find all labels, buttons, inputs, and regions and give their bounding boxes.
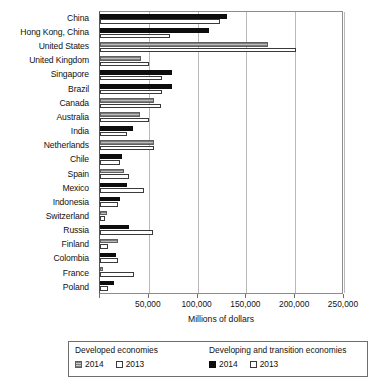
x-tick-label: 150,000 bbox=[230, 299, 260, 309]
bar-row bbox=[100, 12, 342, 26]
legend-item-developing-2013: 2013 bbox=[250, 359, 279, 369]
legend-item-developing-2014: 2014 bbox=[209, 359, 238, 369]
bar-2013 bbox=[100, 258, 118, 263]
plot-wrapper: ChinaHong Kong, ChinaUnited StatesUnited… bbox=[0, 0, 384, 300]
category-label: United States bbox=[0, 39, 93, 53]
bar-2014 bbox=[100, 183, 127, 188]
bar-2013 bbox=[100, 76, 162, 81]
category-label: Finland bbox=[0, 238, 93, 252]
bar-2013 bbox=[100, 216, 105, 221]
bar-row bbox=[100, 96, 342, 110]
swatch-developed-2014-icon bbox=[75, 361, 82, 368]
bar-row bbox=[100, 195, 342, 209]
category-label: Singapore bbox=[0, 68, 93, 82]
bar-row bbox=[100, 110, 342, 124]
gridline bbox=[344, 12, 345, 293]
category-label: Brazil bbox=[0, 82, 93, 96]
bar-2014 bbox=[100, 140, 154, 145]
category-label: Netherlands bbox=[0, 138, 93, 152]
bar-2013 bbox=[100, 62, 149, 67]
bar-2014 bbox=[100, 253, 116, 258]
legend-label-developed-2014: 2014 bbox=[85, 359, 104, 369]
bar-row bbox=[100, 152, 342, 166]
bar-row bbox=[100, 68, 342, 82]
bar-row bbox=[100, 181, 342, 195]
bar-row bbox=[100, 251, 342, 265]
bar-2013 bbox=[100, 188, 144, 193]
bar-2013 bbox=[100, 34, 170, 39]
category-label: China bbox=[0, 11, 93, 25]
category-label: India bbox=[0, 124, 93, 138]
bar-2014 bbox=[100, 267, 103, 272]
bar-row bbox=[100, 26, 342, 40]
x-tick bbox=[197, 294, 198, 298]
bar-2014 bbox=[100, 70, 172, 75]
bar-2013 bbox=[100, 230, 153, 235]
x-tick bbox=[245, 294, 246, 298]
bar-2014 bbox=[100, 14, 227, 19]
bar-row bbox=[100, 265, 342, 279]
legend-label-developing-2013: 2013 bbox=[260, 359, 279, 369]
bar-row bbox=[100, 54, 342, 68]
category-label: Poland bbox=[0, 280, 93, 294]
bar-2014 bbox=[100, 28, 209, 33]
legend-group-developing: Developing and transition economies 2014… bbox=[209, 345, 346, 369]
bar-row bbox=[100, 138, 342, 152]
bar-chart: ChinaHong Kong, ChinaUnited StatesUnited… bbox=[0, 0, 384, 391]
bar-row bbox=[100, 209, 342, 223]
bar-2013 bbox=[100, 272, 134, 277]
swatch-developed-2013-icon bbox=[116, 361, 123, 368]
bar-2014 bbox=[100, 98, 154, 103]
category-label: Switzerland bbox=[0, 209, 93, 223]
bar-2014 bbox=[100, 126, 133, 131]
bar-2014 bbox=[100, 112, 140, 117]
category-label: Indonesia bbox=[0, 195, 93, 209]
bar-2014 bbox=[100, 239, 118, 244]
bar-2014 bbox=[100, 197, 120, 202]
category-label: Colombia bbox=[0, 252, 93, 266]
bar-2014 bbox=[100, 154, 122, 159]
swatch-developing-2014-icon bbox=[209, 361, 216, 368]
x-tick-label: 200,000 bbox=[279, 299, 309, 309]
category-label: United Kingdom bbox=[0, 53, 93, 67]
bar-row bbox=[100, 124, 342, 138]
x-tick-label: 50,000 bbox=[135, 299, 161, 309]
bar-2013 bbox=[100, 146, 154, 151]
bar-row bbox=[100, 40, 342, 54]
category-label: Spain bbox=[0, 167, 93, 181]
bar-row bbox=[100, 237, 342, 251]
x-tick bbox=[99, 294, 100, 298]
bar-2014 bbox=[100, 281, 114, 286]
bar-2013 bbox=[100, 132, 127, 137]
bar-2014 bbox=[100, 56, 141, 61]
bar-2013 bbox=[100, 286, 108, 291]
x-tick-label: 100,000 bbox=[181, 299, 211, 309]
category-label: Mexico bbox=[0, 181, 93, 195]
category-axis-labels: ChinaHong Kong, ChinaUnited StatesUnited… bbox=[0, 11, 93, 294]
category-label: France bbox=[0, 266, 93, 280]
legend-item-developed-2014: 2014 bbox=[75, 359, 104, 369]
bar-rows bbox=[100, 12, 342, 293]
x-axis-title: Millions of dollars bbox=[99, 314, 343, 324]
bar-2013 bbox=[100, 244, 108, 249]
bar-2014 bbox=[100, 42, 268, 47]
category-label: Canada bbox=[0, 96, 93, 110]
bar-row bbox=[100, 82, 342, 96]
x-tick bbox=[343, 294, 344, 298]
bar-row bbox=[100, 223, 342, 237]
swatch-developing-2013-icon bbox=[250, 361, 257, 368]
x-axis-tick-labels: 50,000100,000150,000200,000250,000 bbox=[0, 299, 384, 313]
plot-area bbox=[99, 11, 343, 294]
legend-label-developed-2013: 2013 bbox=[126, 359, 145, 369]
legend-item-developed-2013: 2013 bbox=[116, 359, 145, 369]
bar-2013 bbox=[100, 48, 296, 53]
legend-developed-items: 2014 2013 bbox=[75, 359, 158, 369]
bar-2013 bbox=[100, 202, 118, 207]
legend-developed-title: Developed economies bbox=[75, 345, 158, 355]
legend-developing-title: Developing and transition economies bbox=[209, 345, 346, 355]
bar-2014 bbox=[100, 211, 107, 216]
bar-2013 bbox=[100, 174, 129, 179]
bar-2013 bbox=[100, 160, 120, 165]
bar-2013 bbox=[100, 118, 149, 123]
bar-2014 bbox=[100, 169, 124, 174]
